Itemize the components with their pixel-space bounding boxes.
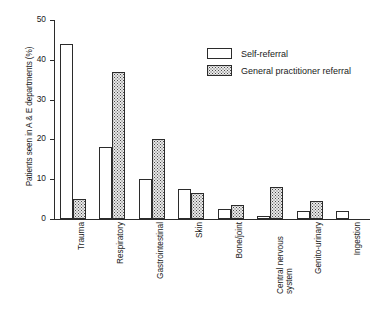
y-tick-mark (50, 219, 54, 220)
y-tick-label: 0 (0, 214, 50, 223)
bar (178, 189, 191, 219)
legend-label: Self-referral (241, 49, 288, 59)
x-axis-line (54, 219, 370, 220)
legend-swatch-open-box-icon (207, 48, 232, 59)
bar-group (133, 20, 173, 219)
bar (112, 72, 125, 219)
bar (99, 147, 112, 219)
x-tick-label: Central nervous system (276, 222, 294, 294)
legend-swatch-stippled-box-icon (207, 65, 232, 76)
bar (73, 199, 86, 219)
x-tick-label: Ingestion (353, 222, 362, 255)
y-tick-label: 30 (0, 95, 50, 104)
bar (336, 211, 349, 219)
legend-label: General practitioner referral (241, 66, 351, 76)
bar (270, 187, 283, 219)
bar (297, 211, 310, 219)
x-tick-label: Genito-urinary (314, 222, 323, 274)
y-tick-label: 10 (0, 174, 50, 183)
x-tick-label: Bone/joint (235, 222, 244, 258)
x-tick-label: Skin (195, 222, 204, 238)
x-axis-labels: TraumaRespiratoryGastrointestinalSkinBon… (54, 222, 370, 322)
bar-chart: Patients seen in A & E departments (%) 0… (0, 0, 376, 324)
bar (231, 205, 244, 219)
bar (191, 193, 204, 219)
bar (257, 216, 270, 219)
bar (218, 209, 231, 219)
legend-item-gp-referral: General practitioner referral (207, 65, 351, 76)
y-tick-label: 50 (0, 15, 50, 24)
legend-item-self-referral: Self-referral (207, 48, 351, 59)
x-tick-label: Respiratory (116, 222, 125, 264)
y-tick-label: 40 (0, 55, 50, 64)
bar (310, 201, 323, 219)
legend: Self-referral General practitioner refer… (207, 48, 351, 82)
bar (60, 44, 73, 219)
y-axis-title: Patients seen in A & E departments (%) (25, 14, 34, 219)
bar (139, 179, 152, 219)
x-tick-label: Trauma (77, 222, 86, 250)
bar-group (54, 20, 94, 219)
bar (152, 139, 165, 219)
bar-group (94, 20, 134, 219)
y-tick-label: 20 (0, 134, 50, 143)
x-tick-label: Gastrointestinal (156, 222, 165, 279)
